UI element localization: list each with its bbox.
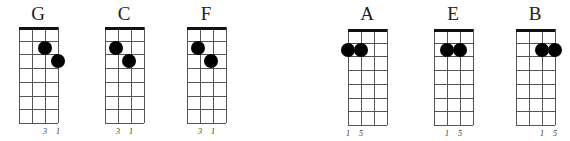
fret-line: [19, 96, 58, 97]
finger-dot: [535, 43, 549, 57]
fret-line: [19, 82, 58, 83]
fret-line: [348, 98, 387, 99]
fret-line: [516, 70, 555, 71]
fret-line: [187, 68, 226, 69]
finger-number: 1: [129, 127, 133, 136]
fret-line: [348, 56, 387, 57]
fret-line: [105, 96, 144, 97]
chord-g: G31: [19, 0, 79, 141]
string-line: [226, 27, 227, 123]
fret-line: [105, 68, 144, 69]
finger-number: 3: [198, 127, 202, 136]
nut-bar: [516, 29, 555, 32]
fret-line: [19, 68, 58, 69]
fret-line: [105, 109, 144, 110]
finger-number: 1: [211, 127, 215, 136]
fretboard-grid: [434, 29, 472, 125]
finger-dot: [51, 54, 65, 68]
fret-line: [348, 70, 387, 71]
fretboard-grid: [19, 27, 57, 123]
nut-bar: [434, 29, 473, 32]
finger-number: 5: [553, 129, 557, 138]
fret-line: [348, 84, 387, 85]
fret-line: [434, 111, 473, 112]
nut-bar: [19, 27, 58, 30]
fret-line: [19, 54, 58, 55]
string-line: [387, 29, 388, 125]
finger-number: 5: [359, 129, 363, 138]
finger-number: 1: [56, 127, 60, 136]
fret-line: [19, 123, 58, 124]
nut-bar: [187, 27, 226, 30]
fret-line: [187, 123, 226, 124]
chord-a: A15: [348, 0, 408, 141]
chord-f: F31: [187, 0, 247, 141]
finger-number: 1: [445, 129, 449, 138]
chord-name: G: [19, 4, 57, 24]
fret-line: [105, 82, 144, 83]
fret-line: [434, 56, 473, 57]
fret-line: [516, 56, 555, 57]
fret-line: [434, 125, 473, 126]
fret-line: [516, 98, 555, 99]
fretboard-grid: [348, 29, 386, 125]
fret-line: [434, 70, 473, 71]
finger-number: 3: [43, 127, 47, 136]
finger-number: 1: [540, 129, 544, 138]
nut-bar: [105, 27, 144, 30]
fret-line: [348, 125, 387, 126]
fret-line: [434, 84, 473, 85]
string-line: [473, 29, 474, 125]
fret-line: [105, 123, 144, 124]
finger-number: 5: [458, 129, 462, 138]
chord-name: E: [434, 4, 472, 24]
fret-line: [187, 82, 226, 83]
chord-name: F: [187, 4, 225, 24]
fret-line: [516, 125, 555, 126]
fret-line: [187, 96, 226, 97]
finger-dot: [191, 41, 205, 55]
fret-line: [187, 109, 226, 110]
fret-line: [516, 43, 555, 44]
finger-dot: [354, 43, 368, 57]
fret-line: [348, 111, 387, 112]
finger-dot: [109, 41, 123, 55]
fretboard-grid: [516, 29, 554, 125]
fret-line: [348, 43, 387, 44]
nut-bar: [348, 29, 387, 32]
fretboard-grid: [187, 27, 225, 123]
fret-line: [434, 98, 473, 99]
chord-c: C31: [105, 0, 165, 141]
fret-line: [19, 41, 58, 42]
finger-dot: [440, 43, 454, 57]
finger-dot: [38, 41, 52, 55]
finger-dot: [204, 54, 218, 68]
chord-name: C: [105, 4, 143, 24]
finger-dot: [122, 54, 136, 68]
string-line: [144, 27, 145, 123]
fret-line: [516, 84, 555, 85]
chord-name: B: [516, 4, 554, 24]
fret-line: [19, 109, 58, 110]
fret-line: [434, 43, 473, 44]
fret-line: [516, 111, 555, 112]
chord-b: B15: [516, 0, 570, 141]
chord-e: E15: [434, 0, 494, 141]
string-line: [58, 27, 59, 123]
finger-dot: [341, 43, 355, 57]
fretboard-grid: [105, 27, 143, 123]
finger-number: 3: [116, 127, 120, 136]
chord-name: A: [348, 4, 386, 24]
finger-dot: [453, 43, 467, 57]
finger-number: 1: [346, 129, 350, 138]
finger-dot: [548, 43, 562, 57]
